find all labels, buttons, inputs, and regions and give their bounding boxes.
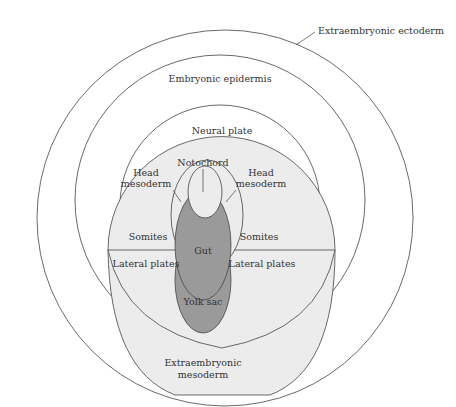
ectoderm-leader-line (296, 32, 315, 45)
label-extraembryonic-mesoderm-2: mesoderm (178, 369, 228, 380)
label-head-mesoderm-left-1: Head (133, 167, 159, 178)
label-head-mesoderm-right-1: Head (248, 167, 274, 178)
label-notochord: Notochord (177, 157, 228, 168)
label-extraembryonic-mesoderm-1: Extraembryonic (164, 357, 241, 368)
label-neural-plate: Neural plate (192, 125, 253, 136)
label-embryonic-epidermis: Embryonic epidermis (168, 73, 271, 84)
label-head-mesoderm-left-2: mesoderm (121, 178, 171, 189)
label-extraembryonic-ectoderm: Extraembryonic ectoderm (318, 25, 444, 36)
label-lateral-plates-right: Lateral plates (229, 258, 296, 269)
label-yolk-sac: Yolk sac (183, 296, 223, 307)
label-somites-left: Somites (129, 231, 168, 242)
label-lateral-plates-left: Lateral plates (113, 258, 180, 269)
label-head-mesoderm-right-2: mesoderm (236, 178, 286, 189)
fate-map-diagram: Extraembryonic ectoderm Embryonic epider… (0, 0, 456, 407)
label-somites-right: Somites (240, 231, 279, 242)
label-gut: Gut (194, 245, 212, 256)
notochord-region (188, 166, 222, 218)
